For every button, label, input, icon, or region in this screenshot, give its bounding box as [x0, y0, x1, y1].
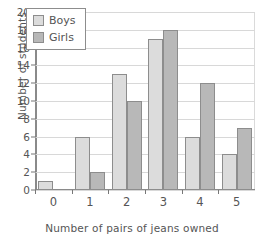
x-tick-label: 0	[50, 195, 57, 209]
legend-item-boys: Boys	[33, 14, 76, 27]
x-tick-label: 1	[86, 195, 93, 209]
bar-boys-2	[112, 74, 127, 190]
bar-chart: Number of students 02468101214161820 012…	[0, 0, 264, 236]
y-tick-label: 2	[23, 166, 30, 178]
x-tick-label: 4	[196, 195, 203, 209]
y-tick-label: 10	[17, 95, 30, 107]
bar-boys-3	[148, 39, 163, 190]
y-tick-label: 8	[23, 113, 30, 125]
bar-group: 3	[145, 12, 182, 190]
legend-item-girls: Girls	[33, 31, 76, 44]
bar-girls-2	[127, 101, 142, 190]
bar-girls-5	[237, 128, 252, 190]
x-tick-mark	[35, 190, 36, 194]
bar-group: 5	[218, 12, 255, 190]
bar-boys-1	[75, 137, 90, 190]
bar-boys-0	[38, 181, 53, 190]
chart-legend: Boys Girls	[26, 8, 86, 50]
x-tick-mark	[108, 190, 109, 194]
x-tick-mark	[72, 190, 73, 194]
legend-swatch-girls	[33, 32, 44, 43]
x-tick-mark	[182, 190, 183, 194]
x-tick-label: 5	[233, 195, 240, 209]
y-tick-label: 4	[23, 148, 30, 160]
y-tick-label: 12	[17, 77, 30, 89]
legend-swatch-boys	[33, 15, 44, 26]
bar-girls-3	[163, 30, 178, 190]
bar-girls-4	[200, 83, 215, 190]
legend-label-boys: Boys	[49, 14, 76, 27]
bar-group: 4	[182, 12, 219, 190]
x-tick-mark	[218, 190, 219, 194]
bar-girls-1	[90, 172, 105, 190]
legend-label-girls: Girls	[49, 31, 74, 44]
x-axis-title: Number of pairs of jeans owned	[0, 222, 264, 234]
y-tick-label: 14	[17, 59, 30, 71]
x-tick-mark	[145, 190, 146, 194]
y-tick-label: 6	[23, 131, 30, 143]
x-tick-label: 3	[160, 195, 167, 209]
x-tick-label: 2	[123, 195, 130, 209]
bar-boys-5	[222, 154, 237, 190]
y-tick-label: 0	[23, 184, 30, 196]
bar-group: 2	[108, 12, 145, 190]
bar-boys-4	[185, 137, 200, 190]
